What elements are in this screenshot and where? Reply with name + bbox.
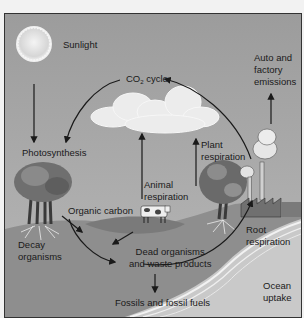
label-root-respiration: Root respiration (246, 224, 290, 248)
plant-line-2: respiration (201, 151, 245, 163)
plant-line-1: Plant (201, 139, 245, 151)
label-photosynthesis: Photosynthesis (22, 147, 86, 159)
co2-text: CO (126, 73, 140, 84)
label-plant-respiration: Plant respiration (201, 139, 245, 163)
auto-line-3: emissions (254, 76, 296, 88)
decay-line-2: organisms (18, 251, 62, 263)
label-decay-organisms: Decay organisms (18, 239, 62, 263)
label-ocean-uptake: Ocean uptake (263, 280, 292, 304)
carbon-cycle-diagram: Sunlight CO2 cycle Auto and factory emis… (4, 13, 302, 318)
decay-line-1: Decay (18, 239, 62, 251)
label-dead-organisms: Dead organisms and waste products (129, 246, 211, 270)
ocean-line-1: Ocean (263, 280, 292, 292)
label-auto-factory-emissions: Auto and factory emissions (254, 52, 296, 88)
root-line-1: Root (246, 224, 290, 236)
root-line-2: respiration (246, 236, 290, 248)
sun-icon (16, 26, 52, 62)
dead-line-2: and waste products (129, 258, 211, 270)
cycle-text: cycle (144, 73, 168, 84)
auto-line-1: Auto and (254, 52, 296, 64)
animal-line-1: Animal (144, 179, 188, 191)
auto-line-2: factory (254, 64, 296, 76)
label-sunlight: Sunlight (63, 39, 97, 51)
animal-line-2: respiration (144, 191, 188, 203)
label-fossils: Fossils and fossil fuels (115, 297, 210, 309)
ocean-line-2: uptake (263, 292, 292, 304)
label-animal-respiration: Animal respiration (144, 179, 188, 203)
dead-line-1: Dead organisms (129, 246, 211, 258)
label-co2-cycle: CO2 cycle (126, 73, 168, 88)
label-organic-carbon: Organic carbon (68, 205, 133, 217)
